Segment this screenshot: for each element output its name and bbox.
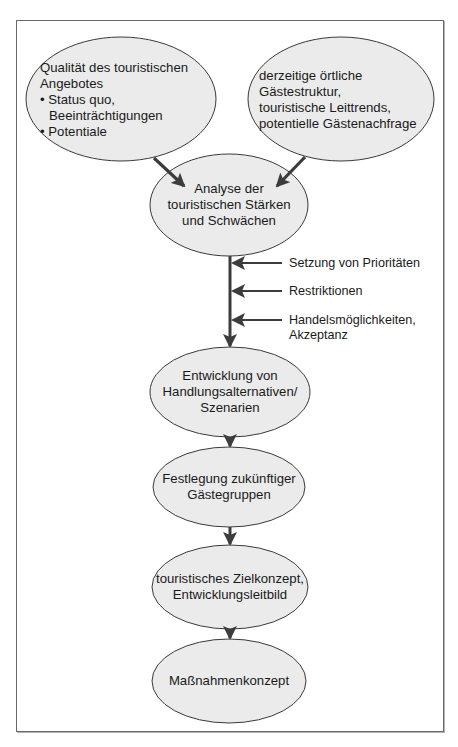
node-concept: touristisches Zielkonzept, Entwicklungsl… [150,570,310,604]
side-input-options: Handelsmöglichkeiten, Akzeptanz [289,313,416,343]
node-quality: Qualität des touristischen Angebotes • S… [40,58,210,142]
node-guests-line-1: derzeitige örtliche [259,68,417,84]
node-alternatives-line-1: Entwicklung von [163,368,298,384]
node-concept-line-2: Entwicklungsleitbild [156,587,304,603]
node-concept-line-1: touristisches Zielkonzept, [156,571,304,587]
node-alternatives-line-3: Szenarien [163,400,298,416]
node-target-groups-line-2: Gästegruppen [162,487,295,503]
node-quality-title-2: Angebotes [40,76,188,92]
node-alternatives: Entwicklung von Handlungsalternativen/ S… [150,366,310,418]
node-quality-bullet-1: • Status quo, [40,92,188,108]
side-input-priorities: Setzung von Prioritäten [289,256,420,271]
node-quality-bullet-2: • Potentiale [40,124,188,140]
node-measures-line-1: Maßnahmenkonzept [169,673,289,689]
node-alternatives-line-2: Handlungsalternativen/ [163,384,298,400]
node-target-groups: Festlegung zukünftiger Gästegruppen [150,470,308,504]
node-guests-line-3: touristische Leittrends, [259,100,417,116]
node-analysis: Analyse der touristischen Stärken und Sc… [150,178,308,232]
node-measures: Maßnahmenkonzept [150,672,308,690]
node-analysis-line-2: touristischen Stärken [167,197,290,213]
side-input-restrictions: Restriktionen [289,284,363,299]
node-guests-line-2: Gästestruktur, [259,84,417,100]
node-quality-title-1: Qualität des touristischen [40,60,188,76]
node-target-groups-line-1: Festlegung zukünftiger [162,471,295,487]
node-analysis-line-1: Analyse der [167,181,290,197]
node-guests: derzeitige örtliche Gästestruktur, touri… [259,66,429,134]
node-guests-line-4: potentielle Gästenachfrage [259,116,417,132]
node-analysis-line-3: und Schwächen [167,213,290,229]
node-quality-bullet-1-cont: Beeinträchtigungen [40,108,188,124]
bullet-icon: • [40,92,45,107]
bullet-icon: • [40,124,45,139]
